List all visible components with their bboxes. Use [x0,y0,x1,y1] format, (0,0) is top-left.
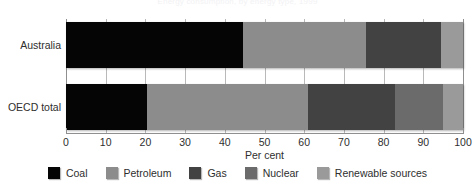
legend-swatch-petroleum [106,167,118,179]
x-axis-title: Per cent [66,149,463,161]
bar-oecd-total [66,84,463,130]
bar-segment-australia-gas [366,22,441,68]
legend-label-petroleum: Petroleum [124,167,172,179]
x-axis-line [66,133,464,134]
bar-segment-oecd-petroleum [147,84,308,130]
legend-swatch-nuclear [245,167,257,179]
bar-segment-australia-coal [66,22,243,68]
x-tick-label-90: 90 [408,136,438,148]
bar-segment-australia-renewable-sources [441,22,463,68]
legend-swatch-renewable-sources [317,167,329,179]
bar-segment-oecd-gas [308,84,395,130]
legend-label-nuclear: Nuclear [263,167,299,179]
x-tick-label-20: 20 [130,136,160,148]
category-label-oecd-total: OECD total [0,101,61,113]
legend-item-nuclear[interactable]: Nuclear [245,167,299,179]
x-tick-label-100: 100 [448,136,475,148]
x-axis-cap-left [66,128,67,134]
x-tick-label-60: 60 [289,136,319,148]
bar-segment-australia-petroleum [243,22,366,68]
legend-item-petroleum[interactable]: Petroleum [106,167,172,179]
stacked-bar-chart: Energy consumption, by energy type, 1999… [0,0,475,191]
bar-segment-oecd-coal [66,84,147,130]
legend-item-coal[interactable]: Coal [48,167,88,179]
x-tick-label-30: 30 [170,136,200,148]
plot-area [66,19,463,134]
category-label-australia: Australia [0,39,61,51]
legend-label-renewable-sources: Renewable sources [335,167,427,179]
legend-item-gas[interactable]: Gas [189,167,226,179]
gridline-100 [463,19,464,134]
legend-label-gas: Gas [207,167,226,179]
x-tick-label-70: 70 [329,136,359,148]
legend-label-coal: Coal [66,167,88,179]
x-tick-label-40: 40 [210,136,240,148]
bar-segment-oecd-renewable-sources [443,84,463,130]
legend-item-renewable-sources[interactable]: Renewable sources [317,167,427,179]
chart-title: Energy consumption, by energy type, 1999 [0,0,475,6]
x-tick-label-0: 0 [51,136,81,148]
legend-swatch-gas [189,167,201,179]
x-axis-cap-right [463,128,464,134]
x-tick-label-80: 80 [369,136,399,148]
bar-australia [66,22,463,68]
legend-swatch-coal [48,167,60,179]
legend: CoalPetroleumGasNuclearRenewable sources [0,167,475,179]
x-tick-label-50: 50 [250,136,280,148]
bar-segment-oecd-nuclear [395,84,443,130]
x-tick-label-10: 10 [91,136,121,148]
